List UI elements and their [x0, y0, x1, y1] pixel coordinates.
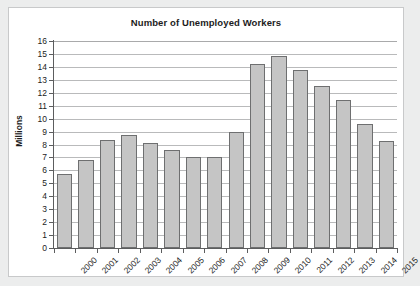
y-tick-label: 12	[21, 89, 47, 98]
bar	[314, 86, 329, 248]
y-tick-label: 13	[21, 76, 47, 85]
y-tick-label: 15	[21, 50, 47, 59]
x-tick-mark	[376, 249, 377, 253]
x-tick-mark	[54, 249, 55, 253]
bar	[271, 56, 286, 248]
x-tick-label: 2002	[121, 255, 141, 275]
gridline	[54, 67, 397, 68]
bar	[121, 135, 136, 248]
x-tick-mark	[333, 249, 334, 253]
x-tick-mark	[75, 249, 76, 253]
x-tick-label: 2013	[357, 255, 377, 275]
x-tick-label: 2010	[293, 255, 313, 275]
bar	[229, 132, 244, 248]
bar	[250, 64, 265, 248]
x-tick-label: 2000	[78, 255, 98, 275]
chart-title: Number of Unemployed Workers	[9, 17, 403, 28]
y-tick-label: 2	[21, 218, 47, 227]
x-tick-label: 2015	[400, 255, 420, 275]
y-tick-label: 6	[21, 166, 47, 175]
y-tick-label: 1	[21, 231, 47, 240]
x-tick-label: 2012	[336, 255, 356, 275]
x-tick-mark	[118, 249, 119, 253]
y-tick-label: 8	[21, 141, 47, 150]
x-tick-mark	[140, 249, 141, 253]
x-tick-label: 2001	[100, 255, 120, 275]
y-tick-label: 4	[21, 192, 47, 201]
x-tick-mark	[183, 249, 184, 253]
x-tick-label: 2005	[185, 255, 205, 275]
bar	[143, 143, 158, 248]
bar	[78, 160, 93, 248]
bar	[357, 124, 372, 248]
y-tick-label: 7	[21, 153, 47, 162]
y-tick-label: 9	[21, 128, 47, 137]
gridline	[54, 93, 397, 94]
y-tick-label: 0	[21, 244, 47, 253]
y-tick-label: 11	[21, 102, 47, 111]
x-tick-mark	[268, 249, 269, 253]
x-tick-label: 2004	[164, 255, 184, 275]
x-tick-mark	[311, 249, 312, 253]
bar	[57, 174, 72, 248]
bar	[186, 157, 201, 248]
x-tick-mark	[161, 249, 162, 253]
y-tick-label: 16	[21, 37, 47, 46]
x-tick-label: 2003	[143, 255, 163, 275]
gridline	[54, 41, 397, 42]
x-tick-mark	[290, 249, 291, 253]
x-tick-mark	[97, 249, 98, 253]
x-tick-label: 2014	[378, 255, 398, 275]
bar	[293, 70, 308, 248]
y-tick-label: 3	[21, 205, 47, 214]
x-tick-mark	[247, 249, 248, 253]
bar	[100, 140, 115, 248]
bar	[164, 150, 179, 248]
x-tick-mark	[204, 249, 205, 253]
bar	[379, 141, 394, 248]
x-tick-label: 2006	[207, 255, 227, 275]
x-tick-label: 2009	[271, 255, 291, 275]
x-tick-mark	[397, 249, 398, 253]
y-tick-label: 10	[21, 115, 47, 124]
bar	[336, 100, 351, 248]
x-tick-mark	[354, 249, 355, 253]
bar	[207, 157, 222, 248]
y-tick-label: 14	[21, 63, 47, 72]
chart-card: Number of Unemployed Workers Millions 01…	[8, 7, 404, 277]
gridline	[54, 80, 397, 81]
x-tick-label: 2008	[250, 255, 270, 275]
y-tick-label: 5	[21, 179, 47, 188]
x-tick-label: 2011	[314, 255, 334, 275]
x-tick-mark	[226, 249, 227, 253]
plot-area	[54, 41, 397, 248]
x-tick-label: 2007	[228, 255, 248, 275]
gridline	[54, 54, 397, 55]
